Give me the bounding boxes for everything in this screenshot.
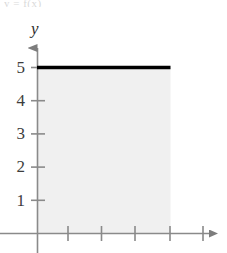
y-tick-label-5: 5 xyxy=(5,59,25,76)
shaded-area-under-curve xyxy=(38,68,171,234)
y-tick-label-2: 2 xyxy=(5,158,25,175)
y-tick-label-1: 1 xyxy=(5,192,25,209)
y-tick-label-3: 3 xyxy=(5,125,25,142)
figure-container: y = f(x) xyxy=(0,0,227,253)
y-axis-label: y xyxy=(31,20,39,37)
y-tick-label-4: 4 xyxy=(5,92,25,109)
